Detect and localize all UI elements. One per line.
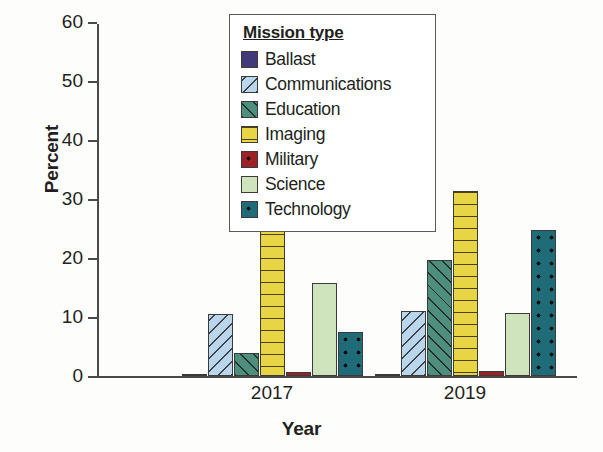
bar-military-2019 bbox=[479, 371, 504, 376]
bar-military-2017 bbox=[286, 372, 311, 376]
legend-item-imaging[interactable]: Imaging bbox=[241, 122, 426, 147]
legend-item-communications[interactable]: Communications bbox=[241, 72, 426, 97]
bar-education-2017 bbox=[234, 353, 259, 376]
y-tick-label-60: 60 bbox=[31, 12, 83, 31]
bar-ballast-2017 bbox=[182, 374, 207, 376]
legend: Mission type BallastCommunicationsEducat… bbox=[229, 14, 436, 232]
legend-item-education[interactable]: Education bbox=[241, 97, 426, 122]
bar-communications-2017 bbox=[208, 314, 233, 376]
legend-item-technology[interactable]: Technology bbox=[241, 197, 426, 222]
legend-label-technology: Technology bbox=[265, 199, 351, 220]
legend-title: Mission type bbox=[243, 23, 426, 43]
y-tick-20 bbox=[88, 258, 97, 260]
x-axis-title: Year bbox=[0, 418, 603, 440]
legend-item-science[interactable]: Science bbox=[241, 172, 426, 197]
x-tick-label-2017: 2017 bbox=[212, 382, 332, 404]
legend-items: BallastCommunicationsEducationImagingMil… bbox=[241, 47, 426, 222]
legend-label-imaging: Imaging bbox=[265, 124, 325, 145]
y-tick-40 bbox=[88, 140, 97, 142]
y-tick-30 bbox=[88, 199, 97, 201]
legend-item-ballast[interactable]: Ballast bbox=[241, 47, 426, 72]
legend-label-communications: Communications bbox=[265, 74, 391, 95]
y-tick-60 bbox=[88, 22, 97, 24]
legend-label-science: Science bbox=[265, 174, 325, 195]
x-axis-line bbox=[97, 376, 577, 378]
bar-technology-2017 bbox=[338, 332, 363, 376]
y-tick-0 bbox=[88, 376, 97, 378]
y-tick-50 bbox=[88, 81, 97, 83]
x-tick-label-2019: 2019 bbox=[405, 382, 525, 404]
legend-item-military[interactable]: Military bbox=[241, 147, 426, 172]
y-tick-label-30: 30 bbox=[31, 189, 83, 208]
y-tick-10 bbox=[88, 317, 97, 319]
bar-technology-2019 bbox=[531, 230, 556, 376]
legend-swatch-technology-icon bbox=[241, 201, 258, 218]
y-tick-label-40: 40 bbox=[31, 130, 83, 149]
bar-imaging-2019 bbox=[453, 191, 478, 376]
legend-swatch-education-icon bbox=[241, 101, 258, 118]
legend-label-military: Military bbox=[265, 149, 318, 170]
legend-swatch-military-icon bbox=[241, 151, 258, 168]
legend-label-ballast: Ballast bbox=[265, 49, 315, 70]
y-tick-label-50: 50 bbox=[31, 71, 83, 90]
legend-label-education: Education bbox=[265, 99, 340, 120]
bar-communications-2019 bbox=[401, 311, 426, 376]
legend-swatch-communications-icon bbox=[241, 76, 258, 93]
bar-ballast-2019 bbox=[375, 374, 400, 376]
y-tick-label-20: 20 bbox=[31, 248, 83, 267]
y-tick-label-0: 0 bbox=[31, 366, 83, 385]
legend-swatch-ballast-icon bbox=[241, 51, 258, 68]
y-axis-line bbox=[97, 24, 99, 378]
y-tick-label-10: 10 bbox=[31, 307, 83, 326]
legend-swatch-imaging-icon bbox=[241, 126, 258, 143]
bar-science-2019 bbox=[505, 313, 530, 376]
legend-swatch-science-icon bbox=[241, 176, 258, 193]
bar-chart: Percent 0102030405060 20172019 Year Miss… bbox=[0, 0, 603, 452]
bar-education-2019 bbox=[427, 260, 452, 376]
bar-science-2017 bbox=[312, 283, 337, 376]
